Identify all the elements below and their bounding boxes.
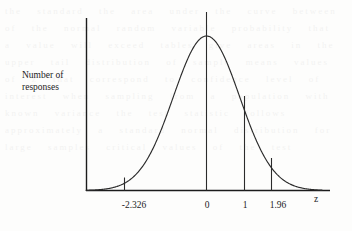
figure-canvas: the standard the area under the curve be… xyxy=(0,0,352,231)
x-tick-label-zero: 0 xyxy=(205,200,210,210)
y-axis-label-line2: responses xyxy=(22,81,63,93)
y-axis-label: Number of responses xyxy=(22,69,63,93)
x-tick-label-196: 1.96 xyxy=(270,200,287,210)
normal-distribution-plot xyxy=(0,0,352,231)
x-axis-label: z xyxy=(314,194,318,204)
x-tick-label-neg2326: -2.326 xyxy=(122,200,147,210)
y-axis-label-line1: Number of xyxy=(22,69,63,81)
x-tick-label-one: 1 xyxy=(243,200,248,210)
normal-curve-path xyxy=(86,36,322,190)
